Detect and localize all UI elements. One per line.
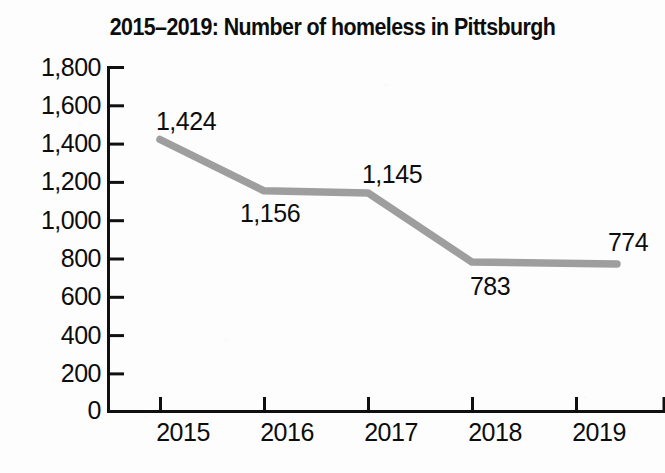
- data-label-2017: 1,145: [332, 161, 452, 187]
- data-label-2015: 1,424: [126, 108, 246, 134]
- data-label-2018: 783: [430, 273, 550, 299]
- data-point-labels: 1,424 1,156 1,145 783 774: [0, 0, 665, 473]
- data-label-2016: 1,156: [210, 200, 330, 226]
- chart-container: 2015–2019: Number of homeless in Pittsbu…: [0, 0, 665, 473]
- data-label-2019: 774: [568, 229, 665, 255]
